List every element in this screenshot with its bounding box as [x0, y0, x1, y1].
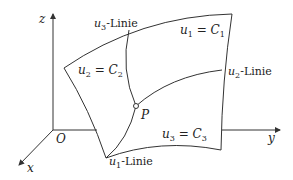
point-p-label: P: [140, 108, 150, 122]
u2-const-label: u2 = C2: [78, 63, 123, 79]
origin-label: O: [56, 132, 66, 146]
u3-line-curve: [106, 30, 136, 158]
point-p-marker: [134, 104, 139, 109]
y-axis-label: y: [267, 131, 275, 145]
x-axis-label: x: [27, 161, 34, 175]
u1-const-label: u1 = C1: [180, 23, 225, 39]
u3-const-label: u3 = C3: [162, 127, 207, 143]
u2-line-curve: [136, 70, 222, 106]
u1-line-label: u1-Linie: [109, 155, 153, 170]
curvilinear-coordinates-diagram: z y x O P u3-Linie u2-Linie u1-Linie u1 …: [0, 0, 293, 180]
u2-line-label: u2-Linie: [228, 65, 272, 80]
x-axis: [19, 130, 53, 165]
z-axis-label: z: [38, 12, 46, 26]
u3-line-label: u3-Linie: [94, 17, 138, 32]
